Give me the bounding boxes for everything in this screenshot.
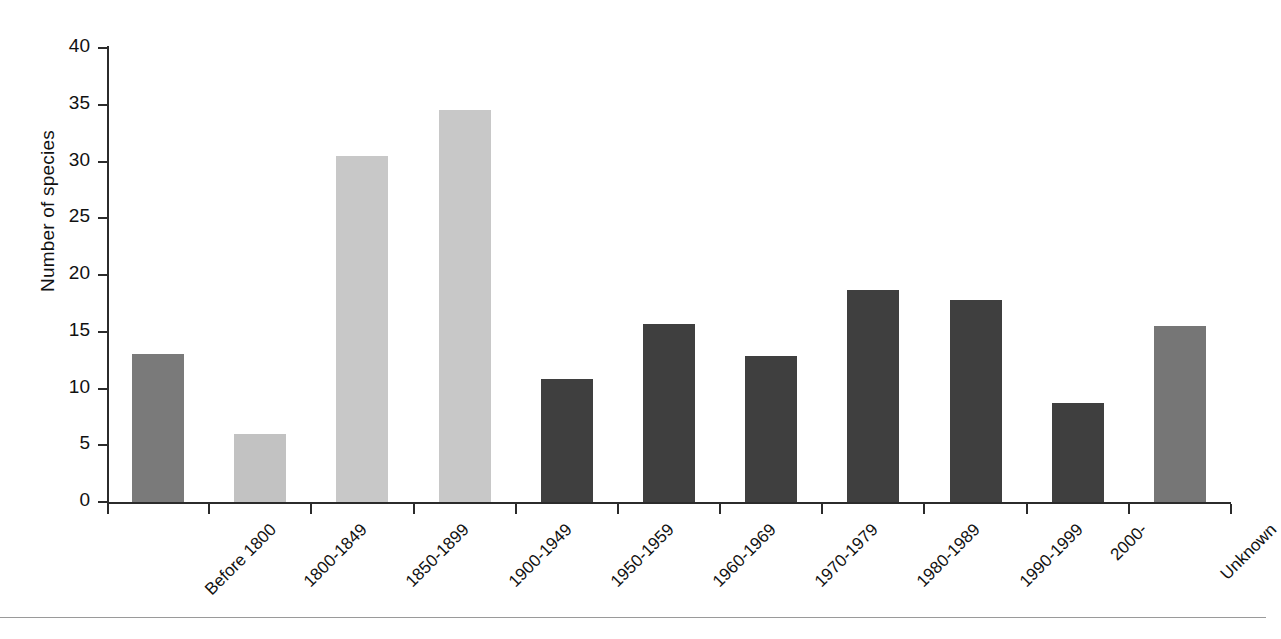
x-axis-tick bbox=[821, 504, 823, 514]
y-axis-tick-label: 0 bbox=[79, 489, 90, 511]
x-axis-category-label: 1900-1949 bbox=[504, 520, 576, 592]
plot-area: 0510152025303540Before 18001800-18491850… bbox=[107, 46, 1231, 504]
x-axis-category-label: 1980-1989 bbox=[913, 520, 985, 592]
y-axis-tick: 5 bbox=[98, 444, 107, 446]
bar bbox=[1154, 326, 1206, 502]
y-axis-tick-mark bbox=[98, 501, 107, 503]
y-axis-tick-mark bbox=[98, 388, 107, 390]
y-axis-tick-label: 40 bbox=[69, 35, 90, 57]
y-axis-tick: 20 bbox=[98, 274, 107, 276]
y-axis-tick-mark bbox=[98, 444, 107, 446]
y-axis-tick: 30 bbox=[98, 161, 107, 163]
x-axis-tick bbox=[310, 504, 312, 514]
bar bbox=[336, 156, 388, 502]
x-axis-tick bbox=[617, 504, 619, 514]
y-axis-tick-label: 30 bbox=[69, 149, 90, 171]
y-axis-tick-label: 35 bbox=[69, 92, 90, 114]
y-axis-line bbox=[107, 46, 109, 504]
bar bbox=[132, 354, 184, 502]
x-axis-category-label: 2000- bbox=[1106, 520, 1151, 565]
x-axis-tick bbox=[107, 504, 109, 514]
y-axis-tick-label: 25 bbox=[69, 205, 90, 227]
y-axis-tick-mark bbox=[98, 274, 107, 276]
x-axis-tick bbox=[1026, 504, 1028, 514]
y-axis-title: Number of species bbox=[37, 91, 59, 331]
y-axis-tick: 35 bbox=[98, 104, 107, 106]
y-axis-tick-mark bbox=[98, 104, 107, 106]
bar bbox=[643, 324, 695, 502]
x-axis-category-label: Unknown bbox=[1217, 520, 1281, 584]
x-axis-tick bbox=[1128, 504, 1130, 514]
x-axis-line bbox=[107, 502, 1231, 504]
bar bbox=[847, 290, 899, 502]
y-axis-tick: 15 bbox=[98, 331, 107, 333]
y-axis-tick-label: 20 bbox=[69, 262, 90, 284]
page-divider-rule bbox=[0, 617, 1266, 618]
bar bbox=[234, 434, 286, 502]
y-axis-tick-mark bbox=[98, 217, 107, 219]
y-axis-tick: 40 bbox=[98, 47, 107, 49]
bar bbox=[541, 379, 593, 502]
x-axis-tick bbox=[515, 504, 517, 514]
x-axis-category-label: Before 1800 bbox=[201, 520, 281, 600]
x-axis-category-label: 1990-1999 bbox=[1015, 520, 1087, 592]
bar bbox=[1052, 403, 1104, 502]
y-axis-tick-mark bbox=[98, 161, 107, 163]
bar bbox=[950, 300, 1002, 502]
x-axis-tick bbox=[719, 504, 721, 514]
y-axis-tick-label: 10 bbox=[69, 376, 90, 398]
x-axis-tick bbox=[413, 504, 415, 514]
y-axis-tick-mark bbox=[98, 47, 107, 49]
x-axis-category-label: 1960-1969 bbox=[709, 520, 781, 592]
bar bbox=[745, 356, 797, 502]
x-axis-category-label: 1850-1899 bbox=[402, 520, 474, 592]
y-axis-tick-label: 5 bbox=[79, 432, 90, 454]
x-axis-tick bbox=[208, 504, 210, 514]
y-axis-tick: 0 bbox=[98, 501, 107, 503]
x-axis-category-label: 1950-1959 bbox=[607, 520, 679, 592]
bar bbox=[439, 110, 491, 502]
y-axis-tick-mark bbox=[98, 331, 107, 333]
y-axis-tick: 10 bbox=[98, 388, 107, 390]
x-axis-tick bbox=[1230, 504, 1232, 514]
y-axis-tick: 25 bbox=[98, 217, 107, 219]
x-axis-category-label: 1800-1849 bbox=[300, 520, 372, 592]
x-axis-category-label: 1970-1979 bbox=[811, 520, 883, 592]
y-axis-tick-label: 15 bbox=[69, 319, 90, 341]
x-axis-tick bbox=[923, 504, 925, 514]
